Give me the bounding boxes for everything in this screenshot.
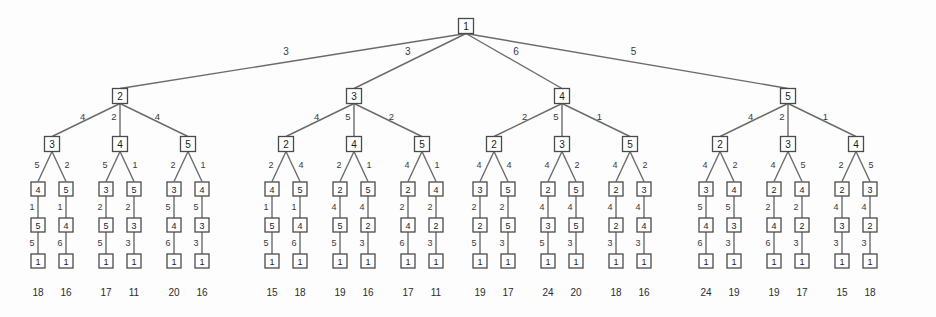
edge-weight-l4-23: 3 [861,238,866,248]
edge-weight-l3-12: 2 [471,202,476,212]
tree-node-l4-10-label: 4 [405,221,410,231]
tree-node-l2-4-label: 4 [351,139,357,150]
tree-node-l4-15-label: 5 [573,221,578,231]
tree-node-l3-11-label: 4 [433,185,438,195]
tree-leaf-15-label: 1 [573,257,578,267]
tree-leaf-7-label: 1 [297,257,302,267]
tree-node-l4-19-label: 3 [731,221,736,231]
leaf-total-0: 18 [32,287,44,298]
tree-node-l3-15-label: 5 [573,185,578,195]
edge-weight-l2-11: 1 [435,160,440,170]
edge-weight-l2-2: 5 [102,160,107,170]
edge-weight-l3-4: 5 [165,202,170,212]
edge-weight-l2-10: 4 [404,160,409,170]
tree-edge-l2-4 [174,152,188,182]
tree-leaf-9-label: 1 [365,257,370,267]
tree-edge-l2-16 [616,152,630,182]
leaf-total-4: 20 [168,287,180,298]
tree-edge-l2-2 [106,152,120,182]
tree-node-l1-3-label: 5 [785,91,791,102]
leaf-total-18: 24 [700,287,712,298]
tree-node-l3-0-label: 4 [35,185,40,195]
tree-node-l2-6-label: 2 [491,139,497,150]
tree-node-l4-22-label: 3 [839,221,844,231]
tree-leaf-20-label: 1 [771,257,776,267]
tree-edge-l2-0 [38,152,52,182]
tree-leaf-12-label: 1 [477,257,482,267]
edge-weight-l2-5: 1 [201,160,206,170]
node-layer: 1234534524523523445353445252435252334242… [31,19,877,269]
edge-weight-l4-16: 3 [607,238,612,248]
edge-weight-l4-10: 6 [399,238,404,248]
tree-node-l3-6-label: 4 [269,185,274,195]
tree-node-l3-4-label: 3 [171,185,176,195]
tree-edge-l2-20 [774,152,788,182]
leaf-total-22: 15 [836,287,848,298]
edge-weight-l2-20: 4 [770,160,775,170]
tree-leaf-21-label: 1 [799,257,804,267]
tree-leaf-18-label: 1 [703,257,708,267]
edge-weight-l1-11: 1 [823,111,828,122]
leaf-total-14: 24 [542,287,554,298]
edge-weight-l2-3: 1 [133,160,138,170]
edge-weight-l3-23: 4 [861,202,866,212]
tree-node-l4-12-label: 2 [477,221,482,231]
edge-weight-l3-18: 5 [697,202,702,212]
tree-node-l4-14-label: 3 [545,221,550,231]
tree-edge-l2-10 [408,152,422,182]
leaf-total-7: 18 [294,287,306,298]
tree-node-l4-20-label: 4 [771,221,776,231]
leaf-total-5: 16 [196,287,208,298]
tree-node-l3-5-label: 4 [199,185,204,195]
tree-node-l3-9-label: 5 [365,185,370,195]
tree-node-l3-20-label: 2 [771,185,776,195]
tree-edge-l1-6 [494,104,562,137]
weight-label-layer: 3365424452251421525121242141444242424525… [29,46,873,248]
edge-weight-l4-11: 3 [427,238,432,248]
tree-node-l1-0-label: 2 [117,91,123,102]
tree-leaf-5-label: 1 [199,257,204,267]
edge-weight-l1-1: 2 [111,111,116,122]
edge-weight-l1-2: 4 [155,111,160,122]
edge-weight-l1-8: 1 [597,111,602,122]
leaf-total-6: 15 [266,287,278,298]
tree-leaf-13-label: 1 [505,257,510,267]
edge-weight-l0-2: 6 [513,46,519,57]
tree-node-l3-12-label: 3 [477,185,482,195]
edge-weight-l4-12: 5 [471,238,476,248]
leaf-total-21: 17 [796,287,808,298]
edge-weight-l1-0: 4 [80,111,85,122]
leaf-total-1: 16 [60,287,72,298]
tree-node-l4-18-label: 4 [703,221,708,231]
tree-edge-l0-0 [120,34,466,89]
tree-node-l3-8-label: 2 [337,185,342,195]
tree-node-l4-21-label: 2 [799,221,804,231]
edge-weight-l2-1: 2 [65,160,70,170]
edge-weight-l3-7: 1 [291,202,296,212]
edge-weight-l3-21: 2 [793,202,798,212]
edge-weight-l4-8: 5 [331,238,336,248]
tree-edge-l2-8 [340,152,354,182]
leaf-total-20: 19 [768,287,780,298]
tree-node-l3-13-label: 5 [505,185,510,195]
tree-node-l1-2-label: 4 [559,91,565,102]
tree-node-l3-7-label: 5 [297,185,302,195]
tree-node-l4-13-label: 5 [505,221,510,231]
tree-leaf-11-label: 1 [433,257,438,267]
edge-weight-l1-5: 2 [389,111,394,122]
tree-node-l4-3-label: 3 [131,221,136,231]
edge-weight-l4-21: 3 [793,238,798,248]
edge-weight-l4-7: 6 [291,238,296,248]
tree-leaf-2-label: 1 [103,257,108,267]
edge-weight-l4-20: 6 [765,238,770,248]
tree-edge-l2-6 [272,152,286,182]
tree-leaf-6-label: 1 [269,257,274,267]
edge-weight-l2-23: 5 [869,160,874,170]
edge-weight-l4-6: 5 [263,238,268,248]
leaf-total-10: 17 [402,287,414,298]
edge-weight-l2-13: 4 [507,160,512,170]
tree-node-l4-23-label: 2 [867,221,872,231]
tree-edge-l1-3 [286,104,354,137]
tree-leaf-22-label: 1 [839,257,844,267]
tree-node-l4-11-label: 2 [433,221,438,231]
